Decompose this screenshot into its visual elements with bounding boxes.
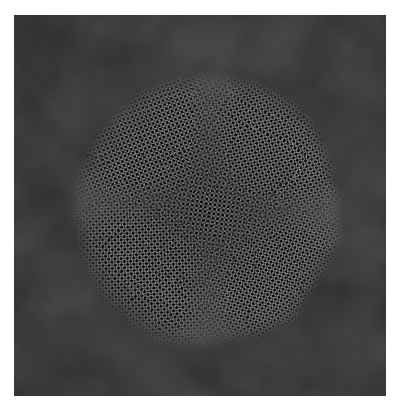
micrograph-frame (14, 15, 386, 396)
micrograph-root (0, 0, 399, 408)
micrograph-canvas (14, 15, 386, 396)
vignette-overlay (14, 15, 386, 396)
